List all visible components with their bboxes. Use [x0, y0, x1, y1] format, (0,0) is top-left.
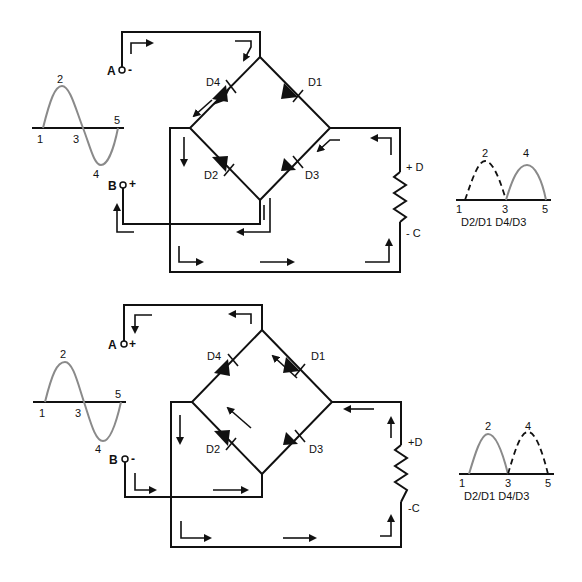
diode-d4-label: D4	[207, 350, 221, 362]
wave-point-3: 3	[73, 133, 79, 145]
wire-left-to-load	[171, 402, 401, 547]
wave-point-1: 1	[37, 133, 43, 145]
terminal-a-label: A	[108, 338, 117, 352]
terminal-b	[120, 182, 126, 188]
wire-a-to-top	[122, 32, 260, 67]
diode-d4: D4	[207, 350, 238, 376]
load-resistor	[395, 445, 407, 502]
diode-d2: D2	[204, 156, 234, 181]
bottom-panel: 1 2 3 4 5 A + B - +D -C D4 D1	[33, 305, 554, 547]
out-point-5: 5	[542, 203, 548, 215]
wave-point-2: 2	[57, 73, 63, 85]
wire-left-to-load	[170, 128, 400, 272]
wave-point-4: 4	[93, 168, 99, 180]
load-plus-label: + D	[406, 161, 423, 173]
out-point-3: 3	[502, 203, 508, 215]
current-flow-arrows	[117, 41, 391, 262]
terminal-a	[121, 341, 127, 347]
diode-d3-label: D3	[309, 443, 323, 455]
wire-right-to-load	[330, 128, 400, 172]
out-point-1: 1	[456, 203, 462, 215]
wire-b-to-bottom	[123, 188, 260, 224]
wave-point-3: 3	[75, 407, 81, 419]
load-plus-label: +D	[408, 436, 422, 448]
load-minus-label: -C	[408, 502, 420, 514]
terminal-a	[119, 67, 125, 73]
diode-d2-label: D2	[206, 443, 220, 455]
input-sine-wave: 1 2 3 4 5	[32, 73, 124, 180]
current-flow-arrows	[135, 314, 391, 538]
out-point-1: 1	[459, 477, 465, 489]
out-point-4: 4	[523, 147, 529, 159]
output-caption: D2/D1 D4/D3	[464, 490, 529, 502]
bridge-rectifier-diagram: 1 2 3 4 5 A - B + + D - C D4	[0, 0, 582, 582]
output-caption: D2/D1 D4/D3	[461, 216, 526, 228]
load-resistor	[394, 172, 406, 222]
wire-a-to-top	[124, 305, 262, 341]
output-rectified-wave: 1 2 3 4 5 D2/D1 D4/D3	[459, 420, 554, 502]
load-minus-label: - C	[406, 227, 421, 239]
top-panel: 1 2 3 4 5 A - B + + D - C D4	[32, 32, 551, 272]
diode-d1-label: D1	[311, 350, 325, 362]
out-point-2: 2	[485, 420, 491, 432]
terminal-b	[122, 456, 128, 462]
diode-d2: D2	[206, 430, 236, 455]
output-rectified-wave: 1 2 3 4 5 D2/D1 D4/D3	[456, 147, 551, 228]
terminal-b-polarity: +	[129, 177, 136, 191]
wave-point-2: 2	[60, 348, 66, 360]
diode-d1-label: D1	[308, 76, 322, 88]
out-point-3: 3	[505, 477, 511, 489]
diode-d3-label: D3	[305, 169, 319, 181]
out-point-2: 2	[482, 147, 488, 159]
diode-d4-label: D4	[206, 76, 220, 88]
wire-b-to-bottom	[125, 462, 262, 497]
out-point-5: 5	[545, 477, 551, 489]
input-sine-wave: 1 2 3 4 5	[33, 348, 126, 455]
out-point-4: 4	[525, 420, 531, 432]
terminal-b-label: B	[109, 453, 118, 467]
terminal-a-polarity: +	[129, 337, 136, 351]
terminal-b-polarity: -	[131, 452, 135, 466]
wave-point-1: 1	[39, 407, 45, 419]
wave-point-4: 4	[95, 443, 101, 455]
terminal-b-label: B	[108, 179, 117, 193]
terminal-a-label: A	[107, 64, 116, 78]
diode-d3: D3	[283, 430, 323, 455]
wave-point-5: 5	[114, 114, 120, 126]
diode-d2-label: D2	[204, 169, 218, 181]
wave-point-5: 5	[115, 388, 121, 400]
terminal-a-polarity: -	[128, 63, 132, 77]
